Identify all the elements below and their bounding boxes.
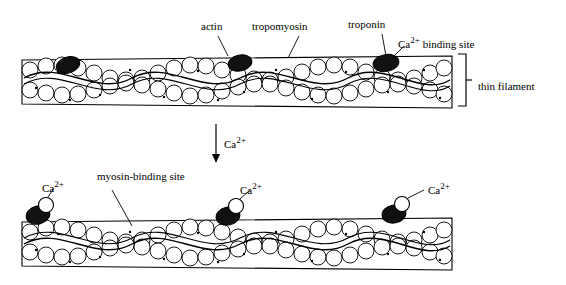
figure-canvas: actin tropomyosin troponin Ca2+ binding …	[0, 0, 566, 285]
label-myosin-binding-site: myosin-binding site	[97, 170, 185, 183]
label-thin-filament: thin filament	[478, 80, 535, 93]
calcium-transition-arrow	[212, 124, 220, 163]
label-ca-1: Ca2+	[42, 178, 64, 195]
label-ca-arrow: Ca2+	[224, 134, 246, 151]
label-actin: actin	[201, 20, 222, 33]
label-troponin: troponin	[348, 18, 385, 31]
label-ca-3: Ca2+	[428, 180, 450, 197]
bottom-thin-filament	[22, 188, 452, 270]
label-ca-2: Ca2+	[240, 180, 262, 197]
label-ca-binding-site: Ca2+ binding site	[398, 34, 474, 51]
diagram-graphics	[0, 0, 566, 285]
label-tropomyosin: tropomyosin	[252, 20, 308, 33]
